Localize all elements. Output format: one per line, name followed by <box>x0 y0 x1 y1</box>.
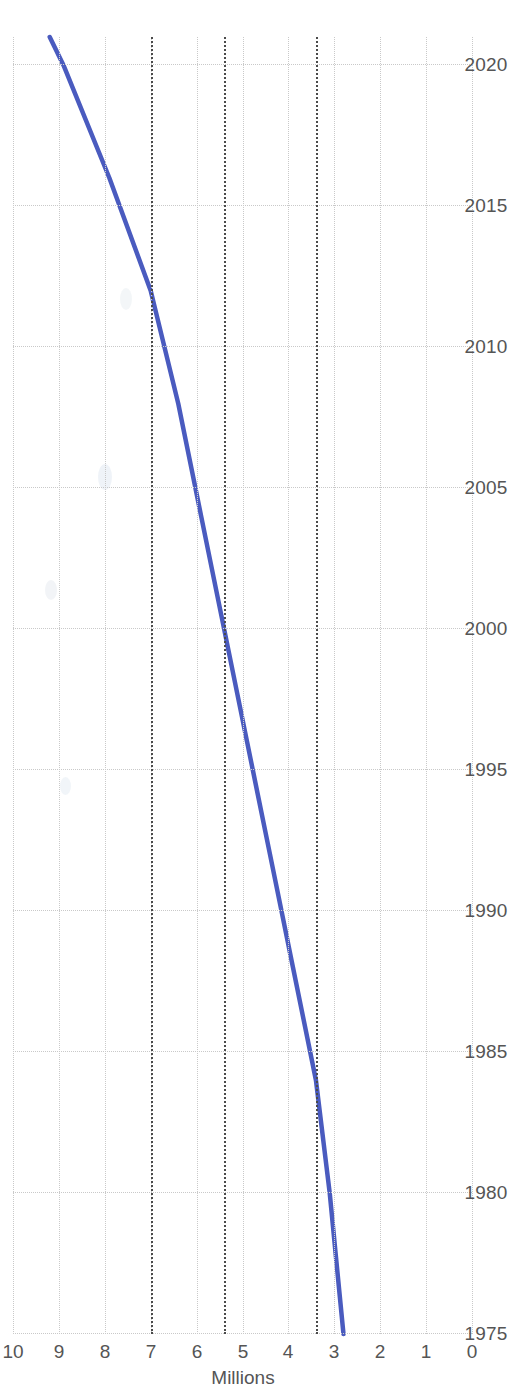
gridline-y-10 <box>13 37 14 1334</box>
gridline-y-5 <box>243 37 244 1334</box>
y-tick-6: 6 <box>191 1341 202 1363</box>
x-tick-1980: 1980 <box>464 1182 507 1204</box>
reference-line-2012 <box>151 37 153 1334</box>
gridline-y-3 <box>334 37 335 1334</box>
x-tick-1985: 1985 <box>464 1041 507 1063</box>
y-tick-7: 7 <box>145 1341 156 1363</box>
reference-line-1984 <box>316 37 318 1334</box>
reference-line-2000 <box>224 37 226 1334</box>
x-tick-1995: 1995 <box>464 759 507 781</box>
gridline-y-6 <box>197 37 198 1334</box>
y-tick-8: 8 <box>100 1341 111 1363</box>
x-tick-1990: 1990 <box>464 900 507 922</box>
y-tick-10: 10 <box>2 1341 23 1363</box>
y-tick-2: 2 <box>375 1341 386 1363</box>
y-axis-title: Millions <box>211 1367 274 1388</box>
plot-area <box>13 37 472 1334</box>
y-tick-1: 1 <box>421 1341 432 1363</box>
y-tick-4: 4 <box>283 1341 294 1363</box>
gridline-y-8 <box>105 37 106 1334</box>
gridline-y-4 <box>288 37 289 1334</box>
y-tick-0: 0 <box>467 1341 478 1363</box>
gridline-y-1 <box>426 37 427 1334</box>
x-tick-2010: 2010 <box>464 336 507 358</box>
y-tick-5: 5 <box>237 1341 248 1363</box>
y-tick-3: 3 <box>329 1341 340 1363</box>
x-tick-2005: 2005 <box>464 477 507 499</box>
y-tick-9: 9 <box>54 1341 65 1363</box>
x-tick-2015: 2015 <box>464 195 507 217</box>
gridline-y-0 <box>472 37 473 1334</box>
x-tick-2000: 2000 <box>464 618 507 640</box>
gridline-y-2 <box>380 37 381 1334</box>
gridline-y-9 <box>59 37 60 1334</box>
x-tick-2020: 2020 <box>464 54 507 76</box>
